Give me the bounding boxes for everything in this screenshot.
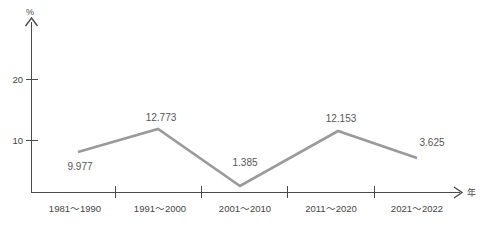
data-value-label-2: 1.385: [232, 157, 257, 168]
x-category-label-1: 1991〜2000: [134, 203, 186, 214]
x-category-label-4: 2021〜2022: [391, 203, 443, 214]
x-category-label-0: 1981〜1990: [49, 203, 101, 214]
data-value-label-1: 12.773: [146, 112, 177, 123]
y-tick-label-10: 10: [12, 135, 23, 146]
y-axis-unit-label: %: [26, 7, 34, 17]
data-value-label-4: 3.625: [419, 137, 444, 148]
data-value-label-3: 12.153: [326, 113, 357, 124]
data-value-label-0: 9.977: [67, 161, 92, 172]
x-category-label-2: 2001〜2010: [219, 203, 271, 214]
x-category-label-3: 2011〜2020: [305, 203, 357, 214]
x-axis-unit-label: 年: [467, 187, 476, 198]
y-tick-label-20: 20: [12, 74, 23, 85]
line-chart-figure: % 年 20 10 1981〜1990 1991〜2000 2001〜2010 …: [0, 0, 484, 229]
chart-canvas: % 年 20 10 1981〜1990 1991〜2000 2001〜2010 …: [0, 0, 484, 229]
